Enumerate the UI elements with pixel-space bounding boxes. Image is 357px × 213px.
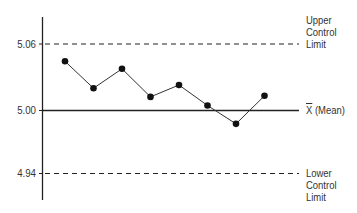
chart-canvas bbox=[0, 0, 357, 213]
lcl-label-line2: Control bbox=[306, 179, 337, 191]
data-point bbox=[176, 82, 183, 89]
data-point bbox=[90, 85, 97, 92]
data-point bbox=[147, 94, 154, 101]
ucl-label-line3: Limit bbox=[306, 38, 326, 50]
mean-label-text: (Mean) bbox=[312, 104, 345, 116]
y-tick-label-ucl: 5.06 bbox=[4, 38, 36, 50]
data-point bbox=[233, 121, 240, 128]
data-point bbox=[204, 102, 211, 109]
data-point bbox=[261, 93, 268, 100]
y-tick-label-lcl: 4.94 bbox=[4, 167, 36, 179]
y-tick-label-mean: 5.00 bbox=[4, 104, 36, 116]
data-point bbox=[119, 66, 126, 73]
data-point bbox=[62, 58, 69, 65]
series-line bbox=[65, 61, 265, 124]
mean-label: X (Mean) bbox=[306, 104, 345, 116]
ucl-label-line2: Control bbox=[306, 26, 337, 38]
lcl-label-line1: Lower bbox=[306, 167, 332, 179]
lcl-label-line3: Limit bbox=[306, 191, 326, 203]
ucl-label-line1: Upper bbox=[306, 14, 332, 26]
data-series bbox=[62, 58, 268, 127]
